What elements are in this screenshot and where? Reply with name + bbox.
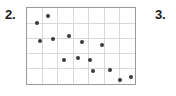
data-point	[35, 21, 39, 25]
plot-area	[27, 8, 135, 84]
item-number-3: 3.	[155, 8, 165, 21]
chart-gridlines	[27, 8, 135, 84]
data-point	[80, 40, 84, 44]
data-point	[46, 14, 50, 18]
vertical-gridlines	[42, 8, 119, 84]
data-point	[76, 56, 80, 60]
data-point	[129, 75, 133, 79]
data-point	[100, 43, 104, 47]
scatter-plot-chart	[26, 7, 136, 85]
data-point	[38, 39, 42, 43]
data-point	[88, 58, 92, 62]
data-point	[67, 34, 71, 38]
data-point	[91, 69, 95, 73]
horizontal-gridlines	[27, 23, 135, 69]
data-point	[118, 78, 122, 82]
data-point	[108, 68, 112, 72]
worksheet-page: 2. 3.	[0, 0, 176, 96]
item-number-2: 2.	[5, 8, 15, 21]
data-point	[51, 37, 55, 41]
data-point	[62, 58, 66, 62]
